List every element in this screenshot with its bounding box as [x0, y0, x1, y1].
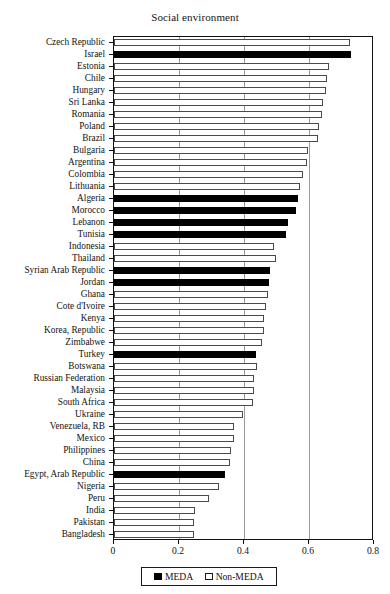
category-tick	[109, 510, 113, 511]
category-tick	[109, 378, 113, 379]
bar-row	[114, 181, 372, 194]
bar-row	[114, 49, 372, 62]
bar-row	[114, 73, 372, 86]
category-label: Indonesia	[69, 241, 105, 251]
bar	[114, 519, 194, 525]
category-label: Ghana	[81, 289, 105, 299]
bar-row	[114, 193, 372, 206]
category-label: Venezuela, RB	[50, 421, 105, 431]
bar	[114, 483, 219, 489]
bar-row	[114, 37, 372, 50]
bar	[114, 147, 308, 153]
bar-row	[114, 109, 372, 122]
bar-row	[114, 409, 372, 422]
category-tick	[109, 102, 113, 103]
category-label: Botswana	[68, 361, 105, 371]
bar-row	[114, 349, 372, 362]
bar-row	[114, 145, 372, 158]
category-label: Estonia	[77, 61, 105, 71]
bar-row	[114, 505, 372, 518]
bar-row	[114, 445, 372, 458]
category-tick	[109, 414, 113, 415]
category-tick	[109, 78, 113, 79]
category-tick	[109, 90, 113, 91]
open-square-icon	[205, 573, 213, 581]
category-label: Thailand	[72, 253, 105, 263]
bar	[114, 363, 257, 369]
bar-row	[114, 469, 372, 482]
bar	[114, 171, 303, 177]
category-label: Bangladesh	[62, 529, 105, 539]
category-label: Peru	[88, 493, 105, 503]
category-label: Argentina	[68, 157, 105, 167]
category-label: Sri Lanka	[69, 97, 105, 107]
category-label: Romania	[71, 109, 105, 119]
category-label: Korea, Republic	[44, 325, 105, 335]
category-tick	[109, 126, 113, 127]
bar	[114, 447, 231, 453]
bar-row	[114, 313, 372, 326]
category-tick	[109, 210, 113, 211]
category-tick	[109, 198, 113, 199]
bar	[114, 87, 326, 93]
chart-legend: MEDANon-MEDA	[141, 567, 277, 586]
bar	[114, 183, 300, 189]
category-label: Turkey	[78, 349, 105, 359]
bar-series	[114, 37, 372, 539]
category-tick	[109, 486, 113, 487]
category-label: Lithuania	[69, 181, 105, 191]
bar-row	[114, 337, 372, 350]
category-tick	[109, 174, 113, 175]
bar	[114, 351, 256, 357]
category-tick	[109, 450, 113, 451]
category-tick	[109, 138, 113, 139]
category-label: Colombia	[68, 169, 105, 179]
category-tick	[109, 306, 113, 307]
category-label: Bulgaria	[73, 145, 105, 155]
category-label: Algeria	[77, 193, 105, 203]
category-tick	[109, 426, 113, 427]
bar	[114, 243, 274, 249]
bar	[114, 135, 318, 141]
category-label: Malaysia	[71, 385, 105, 395]
x-tick-label: 0	[111, 545, 116, 556]
bar	[114, 231, 286, 237]
category-label: Chile	[85, 73, 105, 83]
category-label: Morocco	[71, 205, 105, 215]
bar-row	[114, 397, 372, 410]
category-label: Lebanon	[72, 217, 105, 227]
category-tick	[109, 402, 113, 403]
bar-row	[114, 97, 372, 110]
bar-row	[114, 157, 372, 170]
category-tick	[109, 150, 113, 151]
category-tick	[109, 114, 113, 115]
bar	[114, 339, 262, 345]
category-label: Czech Republic	[46, 37, 105, 47]
category-tick	[109, 366, 113, 367]
bar	[114, 399, 253, 405]
bar	[114, 99, 323, 105]
category-label: Nigeria	[77, 481, 105, 491]
category-label: Jordan	[80, 277, 105, 287]
bar-row	[114, 481, 372, 494]
bar-row	[114, 517, 372, 530]
bar	[114, 159, 307, 165]
bar	[114, 111, 322, 117]
category-label: India	[86, 505, 105, 515]
category-tick	[109, 162, 113, 163]
category-tick	[109, 234, 113, 235]
category-label: Hungary	[72, 85, 105, 95]
bar	[114, 63, 329, 69]
category-tick	[109, 246, 113, 247]
bar	[114, 39, 350, 45]
bar	[114, 411, 243, 417]
bar-row	[114, 229, 372, 242]
bar-row	[114, 121, 372, 134]
bar	[114, 219, 288, 225]
category-tick	[109, 42, 113, 43]
category-tick	[109, 54, 113, 55]
x-tick-label: 0.6	[302, 545, 314, 556]
category-axis-labels: Czech RepublicIsraelEstoniaChileHungaryS…	[0, 36, 110, 540]
category-tick	[109, 438, 113, 439]
category-tick	[109, 270, 113, 271]
